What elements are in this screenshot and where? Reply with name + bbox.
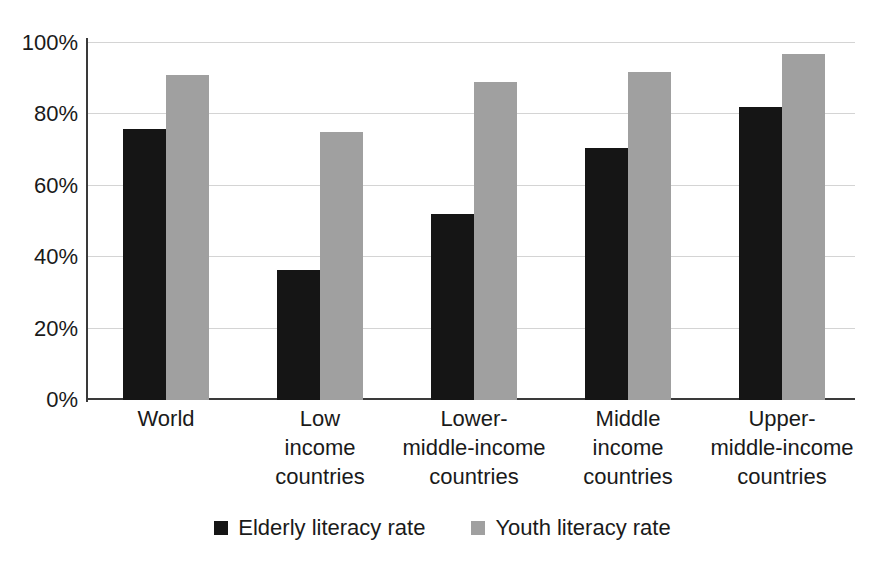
legend-swatch-icon (214, 521, 228, 535)
bar (585, 148, 628, 400)
bar (123, 129, 166, 400)
y-axis-tick-label: 80% (4, 103, 78, 125)
y-axis-tick-label: 20% (4, 318, 78, 340)
y-axis-tick-label: 60% (4, 175, 78, 197)
x-axis-category-label: Upper-middle-incomecountries (687, 404, 877, 491)
y-axis-tick-label: 0% (4, 389, 78, 411)
bar-group (431, 43, 517, 400)
chart-legend: Elderly literacy rateYouth literacy rate (0, 516, 885, 540)
bar (628, 72, 671, 400)
legend-item[interactable]: Youth literacy rate (471, 516, 670, 540)
bar (320, 132, 363, 400)
bar-chart-figure: 0%20%40%60%80%100% WorldLowincomecountri… (0, 0, 885, 564)
bar (277, 270, 320, 400)
bar (782, 54, 825, 400)
x-axis-category-labels: WorldLowincomecountriesLower-middle-inco… (86, 404, 855, 500)
bar (431, 214, 474, 400)
bar-group (585, 43, 671, 400)
bar-group (739, 43, 825, 400)
x-axis-label-line: Upper- (687, 404, 877, 433)
x-axis-label-line: middle-income (687, 433, 877, 462)
y-axis-tick-label: 40% (4, 246, 78, 268)
x-axis-label-line: countries (687, 462, 877, 491)
y-axis-tick-label: 100% (4, 32, 78, 54)
legend-item[interactable]: Elderly literacy rate (214, 516, 425, 540)
bar (474, 82, 517, 400)
bars-layer (86, 43, 855, 400)
bar (166, 75, 209, 400)
y-axis-tick-labels: 0%20%40%60%80%100% (0, 43, 78, 400)
legend-swatch-icon (471, 521, 485, 535)
legend-label: Youth literacy rate (495, 516, 670, 540)
bar (739, 107, 782, 400)
bar-group (123, 43, 209, 400)
bar-group (277, 43, 363, 400)
legend-label: Elderly literacy rate (238, 516, 425, 540)
